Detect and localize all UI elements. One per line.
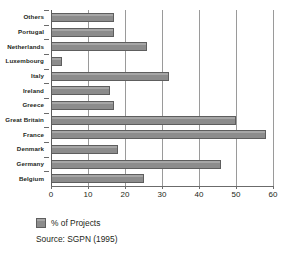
category-label: Denmark — [0, 142, 48, 157]
bar-highlight — [52, 131, 265, 133]
bar — [51, 174, 144, 183]
bar-highlight — [52, 29, 113, 31]
bar-highlight — [52, 102, 113, 104]
bar — [51, 72, 169, 81]
category-label: Italy — [0, 69, 48, 84]
x-tick-label: 60 — [269, 189, 278, 201]
bar-highlight — [52, 58, 61, 60]
legend-label: % of Projects — [51, 218, 100, 228]
bar — [51, 130, 266, 139]
bar-highlight — [52, 14, 113, 16]
bar — [51, 160, 221, 169]
x-tick-label: 20 — [121, 189, 130, 201]
category-label: Netherlands — [0, 39, 48, 54]
bar-highlight — [52, 87, 109, 89]
category-label: Greece — [0, 98, 48, 113]
category-label: Ireland — [0, 83, 48, 98]
bar-chart: Others Portugal Netherlands Luxembourg I… — [0, 0, 287, 253]
x-tick-label: 40 — [195, 189, 204, 201]
bar-row — [51, 83, 273, 98]
bar-row — [51, 98, 273, 113]
bar-highlight — [52, 43, 146, 45]
x-tick-label: 30 — [158, 189, 167, 201]
bar — [51, 145, 118, 154]
category-label: Luxembourg — [0, 54, 48, 69]
bar-row — [51, 39, 273, 54]
bar-highlight — [52, 117, 235, 119]
gridline — [273, 10, 274, 186]
plot-canvas — [51, 10, 273, 186]
bar-highlight — [52, 161, 220, 163]
bar — [51, 101, 114, 110]
category-label: Others — [0, 10, 48, 25]
bar-series — [51, 10, 273, 186]
bar-row — [51, 54, 273, 69]
bar-row — [51, 10, 273, 25]
plot-area: Others Portugal Netherlands Luxembourg I… — [0, 0, 287, 200]
category-label: Portugal — [0, 25, 48, 40]
bar-row — [51, 142, 273, 157]
x-tick-label: 10 — [84, 189, 93, 201]
x-tick-label: 0 — [49, 189, 53, 201]
bar-row — [51, 113, 273, 128]
x-axis-tick-labels: 0102030405060 — [51, 189, 273, 203]
bar — [51, 28, 114, 37]
category-label: Germany — [0, 157, 48, 172]
x-tick-label: 50 — [232, 189, 241, 201]
bar-highlight — [52, 73, 168, 75]
bar-row — [51, 69, 273, 84]
bar — [51, 42, 147, 51]
bar-row — [51, 157, 273, 172]
category-label: France — [0, 127, 48, 142]
bar — [51, 116, 236, 125]
bar-row — [51, 127, 273, 142]
bar-highlight — [52, 146, 117, 148]
category-label: Great Britain — [0, 113, 48, 128]
bar-row — [51, 25, 273, 40]
bar-highlight — [52, 175, 143, 177]
bar — [51, 86, 110, 95]
legend-swatch — [36, 218, 46, 228]
bar — [51, 57, 62, 66]
source-note: Source: SGPN (1995) — [36, 234, 117, 244]
bar — [51, 13, 114, 22]
bar-row — [51, 171, 273, 186]
legend: % of Projects — [36, 218, 100, 228]
category-label: Belgium — [0, 171, 48, 186]
category-axis-labels: Others Portugal Netherlands Luxembourg I… — [0, 10, 48, 186]
